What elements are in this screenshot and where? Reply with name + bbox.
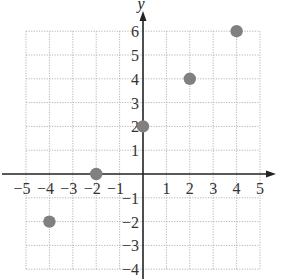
y-axis-label: y — [135, 0, 145, 13]
data-point — [230, 25, 242, 37]
y-tick-label: −2 — [122, 214, 139, 231]
x-tick-label: −4 — [37, 180, 54, 197]
y-tick-label: −3 — [122, 237, 139, 254]
x-tick-label: −2 — [84, 180, 101, 197]
x-tick-label: −3 — [60, 180, 77, 197]
data-point — [90, 168, 102, 180]
x-axis-arrow-icon — [266, 171, 276, 178]
data-point — [184, 73, 196, 85]
y-axis-arrow-icon — [140, 11, 147, 21]
y-tick-label: 6 — [131, 23, 139, 40]
tick-labels: −5−4−3−2−112345654321−1−2−3−4 — [13, 23, 264, 278]
data-point — [43, 215, 55, 227]
data-point — [137, 120, 149, 132]
y-tick-label: 3 — [131, 95, 139, 112]
x-tick-label: −5 — [13, 180, 30, 197]
x-tick-label: 2 — [186, 180, 194, 197]
x-tick-label: 3 — [209, 180, 217, 197]
y-tick-label: −4 — [122, 261, 139, 278]
y-tick-label: −1 — [122, 190, 139, 207]
y-tick-label: 5 — [131, 47, 139, 64]
axes: y — [2, 0, 276, 279]
y-tick-label: 1 — [131, 142, 139, 159]
x-tick-label: 1 — [162, 180, 170, 197]
coordinate-plane: y −5−4−3−2−112345654321−1−2−3−4 — [0, 0, 282, 279]
x-tick-label: 4 — [233, 180, 241, 197]
y-tick-label: 4 — [131, 71, 139, 88]
x-tick-label: 5 — [256, 180, 264, 197]
